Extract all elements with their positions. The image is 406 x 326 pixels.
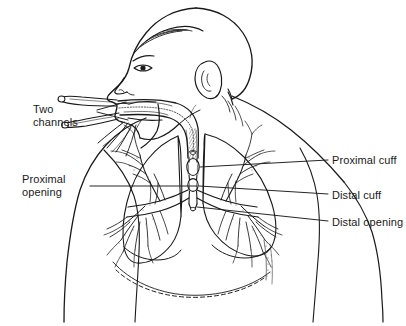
label-two-channels: Two channels: [33, 103, 95, 128]
torso-outline: [64, 92, 383, 322]
label-proximal-cuff: Proximal cuff: [332, 154, 397, 166]
medical-illustration-figure: Two channels Proximal opening Proximal c…: [0, 0, 406, 326]
head-profile: [107, 8, 252, 140]
label-proximal-opening-line2: opening: [22, 186, 62, 198]
label-distal-opening: Distal opening: [332, 216, 403, 228]
label-proximal-opening: Proximal opening: [22, 173, 88, 198]
leader-distal-opening: [197, 207, 328, 221]
leader-lines: [90, 102, 328, 221]
label-two-channels-line1: Two: [33, 103, 53, 115]
label-two-channels-line2: channels: [33, 116, 78, 128]
label-distal-cuff: Distal cuff: [332, 189, 381, 201]
leader-distal-cuff: [199, 186, 328, 194]
distal-opening-port: [190, 207, 195, 210]
label-proximal-opening-line1: Proximal: [22, 173, 66, 185]
